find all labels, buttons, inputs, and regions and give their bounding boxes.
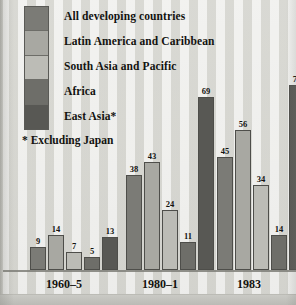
legend-swatch-all-developing-countries (25, 7, 48, 31)
bar-value-1980-1-all-developing-countries: 38 (123, 164, 145, 174)
bar-1983-latin-america-and-caribbean (235, 130, 251, 270)
plot-bottom-edge (0, 294, 296, 305)
bar-value-1960-5-east-asia: 13 (99, 226, 121, 236)
bar-1983-africa (271, 235, 287, 270)
bar-1983-all-developing-countries (217, 157, 233, 270)
bar-1980-1-east-asia (198, 97, 214, 270)
legend-label-latin-america-and-caribbean: Latin America and Caribbean (64, 35, 215, 47)
bar-1960-5-all-developing-countries (30, 247, 46, 270)
legend-swatch-east-asia (25, 105, 48, 129)
bar-1980-1-africa (180, 242, 196, 270)
x-axis-baseline (0, 270, 296, 272)
bar-value-1960-5-africa: 5 (81, 246, 103, 256)
legend-label-south-asia-and-pacific: South Asia and Pacific (64, 60, 176, 72)
legend-label-africa: Africa (64, 85, 96, 97)
legend-swatch-latin-america-and-caribbean (25, 31, 48, 55)
bar-1980-1-south-asia-and-pacific (162, 210, 178, 270)
bar-value-1983-east-asia: 74 (286, 74, 296, 84)
bar-value-1983-all-developing-countries: 45 (214, 146, 236, 156)
x-axis-label-1983: 1983 (205, 277, 293, 292)
bar-value-1980-1-east-asia: 69 (195, 86, 217, 96)
bar-value-1980-1-latin-america-and-caribbean: 43 (141, 151, 163, 161)
bar-value-1960-5-all-developing-countries: 9 (27, 236, 49, 246)
bar-value-1983-africa: 14 (268, 224, 290, 234)
bar-1983-east-asia (289, 85, 296, 270)
bar-1960-5-east-asia (102, 237, 118, 270)
chart-figure: All developing countries Latin America a… (0, 0, 296, 305)
bar-value-1983-latin-america-and-caribbean: 56 (232, 119, 254, 129)
x-axis-label-1960-5: 1960–5 (18, 277, 110, 292)
bar-1983-south-asia-and-pacific (253, 185, 269, 270)
legend-label-all-developing-countries: All developing countries (64, 10, 185, 22)
bar-1960-5-africa (84, 257, 100, 270)
x-axis-label-1980-1: 1980–1 (114, 277, 206, 292)
bar-value-1980-1-africa: 11 (177, 231, 199, 241)
bar-value-1960-5-latin-america-and-caribbean: 14 (45, 224, 67, 234)
plot-left-edge (0, 0, 3, 305)
legend-swatch-stack (24, 6, 49, 130)
bar-value-1980-1-south-asia-and-pacific: 24 (159, 199, 181, 209)
bar-value-1983-south-asia-and-pacific: 34 (250, 174, 272, 184)
bar-1960-5-latin-america-and-caribbean (48, 235, 64, 270)
legend-swatch-south-asia-and-pacific (25, 56, 48, 80)
bar-1960-5-south-asia-and-pacific (66, 252, 82, 270)
legend-label-east-asia: East Asia* (64, 110, 116, 122)
bar-1980-1-all-developing-countries (126, 175, 142, 270)
legend-footnote: * Excluding Japan (22, 134, 113, 146)
bar-1980-1-latin-america-and-caribbean (144, 162, 160, 270)
legend-swatch-africa (25, 80, 48, 104)
